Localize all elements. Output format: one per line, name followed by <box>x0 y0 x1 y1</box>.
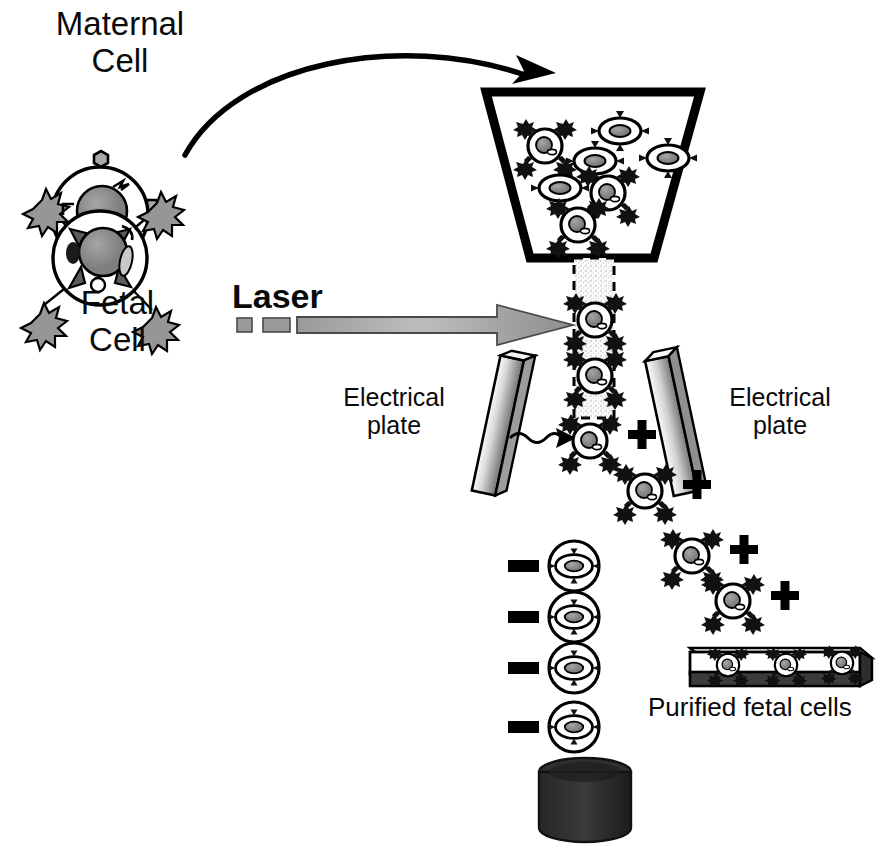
diagram-canvas: Maternal Cell Fetal Cell Laser Electrica… <box>0 0 896 852</box>
electrical-plate-left-label: Electrical plate <box>318 383 470 439</box>
laser-label: Laser <box>232 277 362 315</box>
negative-droplet-group <box>548 541 599 752</box>
electrical-plate-left <box>472 349 535 498</box>
collection-dish <box>690 645 872 687</box>
waste-container <box>539 758 631 842</box>
fetal-cell-label: Fetal Cell <box>10 285 225 359</box>
maternal-cell-label: Maternal Cell <box>10 6 230 80</box>
minus-symbol <box>508 560 539 733</box>
purified-fetal-cells-label: Purified fetal cells <box>648 693 896 722</box>
electrical-plate-right-label: Electrical plate <box>700 383 860 439</box>
